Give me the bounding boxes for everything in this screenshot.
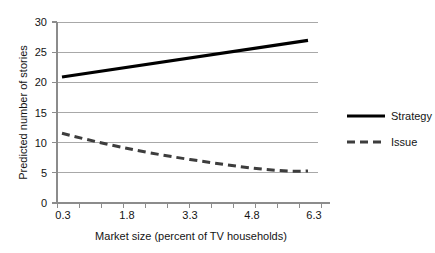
y-tick-label-10: 10 bbox=[35, 137, 47, 149]
x-tick-label-4: 4.8 bbox=[244, 209, 259, 221]
chart-figure: 30 25 20 15 10 5 0 0.3 1.8 3.3 4.8 6.3 M… bbox=[0, 0, 435, 253]
x-axis-title: Market size (percent of TV households) bbox=[95, 230, 287, 242]
y-tick-label-30: 30 bbox=[35, 16, 47, 28]
y-tick-label-15: 15 bbox=[35, 107, 47, 119]
x-tick-label-1: 0.3 bbox=[55, 209, 70, 221]
y-tick-label-25: 25 bbox=[35, 46, 47, 58]
x-tick-label-3: 3.3 bbox=[182, 209, 197, 221]
legend-label-issue: Issue bbox=[391, 136, 417, 148]
x-tick-label-5: 6.3 bbox=[306, 209, 321, 221]
y-tick-label-20: 20 bbox=[35, 76, 47, 88]
y-axis-title: Predicted number of stories bbox=[17, 45, 29, 180]
y-tick-label-0: 0 bbox=[41, 197, 47, 209]
x-tick-label-2: 1.8 bbox=[119, 209, 134, 221]
legend-label-strategy: Strategy bbox=[391, 110, 432, 122]
line-chart: 30 25 20 15 10 5 0 0.3 1.8 3.3 4.8 6.3 M… bbox=[0, 0, 435, 253]
y-tick-label-5: 5 bbox=[41, 167, 47, 179]
